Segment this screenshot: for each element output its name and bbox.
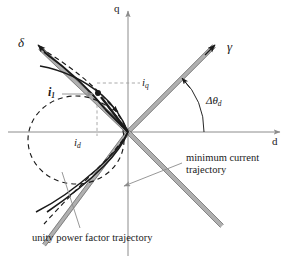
- gamma-axis-group: [127, 45, 216, 134]
- min-current-line1: minimum current: [186, 152, 259, 164]
- gamma-axis-label: γ: [227, 40, 232, 55]
- min-current-line2: trajectory: [186, 164, 259, 176]
- current-vector-label: i1: [48, 86, 55, 100]
- delta-theta-d-label: Δθd: [206, 94, 222, 108]
- angle-arc-path: [182, 78, 204, 132]
- gamma-axis-negative-edge-a: [130, 131, 224, 225]
- min-current-trajectory-solid-lower: [47, 132, 128, 212]
- gamma-axis-band: [128, 46, 214, 132]
- unity-power-factor-trajectory-label: unity power factor trajectory: [32, 232, 152, 244]
- gamma-axis-edge-upper: [127, 45, 213, 131]
- d-axis-label: d: [272, 135, 278, 147]
- i1-vector-line: [101, 97, 128, 132]
- gamma-axis-edge-lower: [129, 47, 215, 133]
- angle-arc-arrow: [182, 78, 190, 88]
- delta-axis-negative-edge-b: [43, 131, 127, 244]
- diagram-canvas: [0, 0, 290, 263]
- current-vector-subscript: 1: [51, 91, 55, 100]
- axis-group: [8, 11, 280, 256]
- id-subscript: d: [77, 141, 81, 150]
- delta-theta-arc: [182, 78, 204, 132]
- iq-label: iq: [142, 76, 149, 90]
- delta-axis-label: δ: [18, 36, 24, 51]
- minimum-current-trajectory-label: minimum current trajectory: [186, 152, 259, 176]
- unity-pf-trajectory-solid-lower: [36, 132, 128, 212]
- delta-theta-base: Δθ: [206, 94, 218, 106]
- gamma-axis-negative-edge-b: [127, 134, 221, 228]
- gamma-axis-arrow: [205, 45, 215, 55]
- q-axis-label: q: [114, 2, 120, 14]
- delta-theta-subscript: d: [218, 99, 222, 108]
- iq-subscript: q: [145, 81, 149, 90]
- minimum-current-trajectory-dashed: [40, 48, 128, 224]
- operating-point-marker: [95, 90, 101, 96]
- current-vector-diagram: q d δ γ i1 iq id Δθd minimum current tra…: [0, 0, 290, 263]
- id-label: id: [74, 136, 81, 150]
